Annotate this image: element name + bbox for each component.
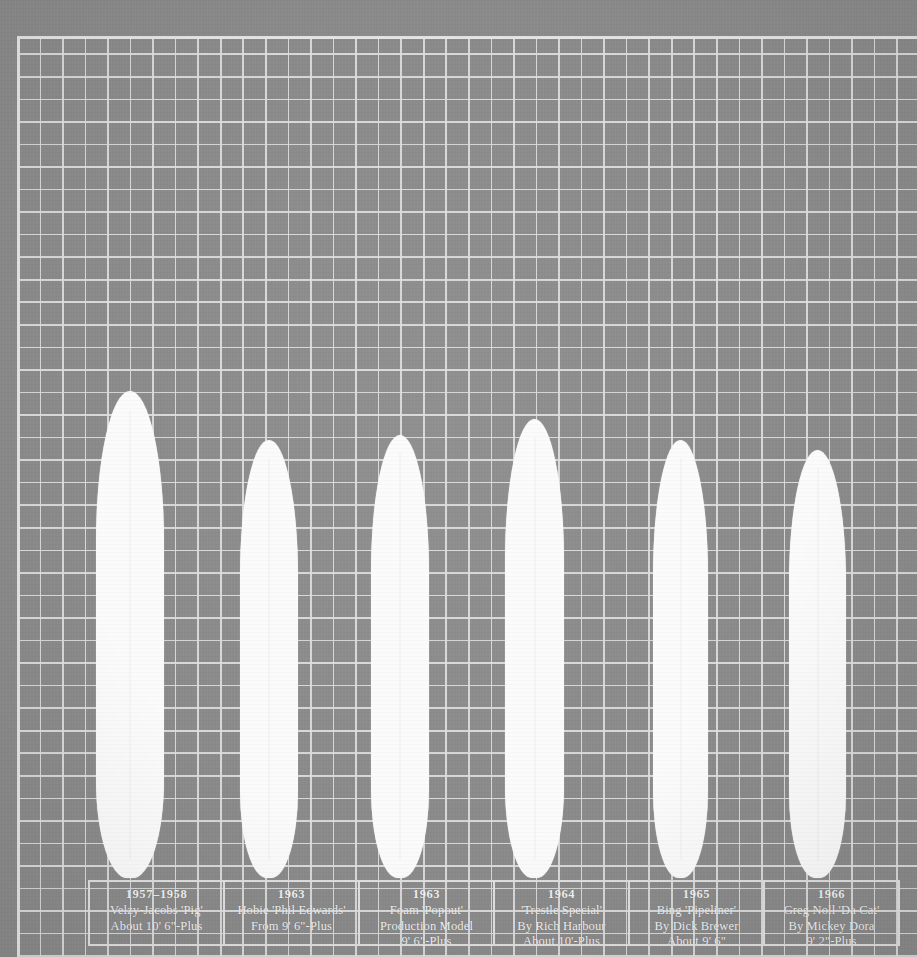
caption-line-2: Greg Noll 'Da Cat'	[784, 903, 880, 918]
surfboard-silhouette-6	[789, 450, 846, 878]
caption-line-2: Foam 'Popout'	[390, 903, 463, 918]
surfboard-silhouette-4	[505, 419, 564, 878]
caption-panel: 1957–1958Velzy-Jacobs 'Pig'About 10' 6"-…	[88, 880, 900, 946]
caption-line-2: Bing 'Pipeliner'	[657, 903, 736, 918]
caption-year: 1965	[683, 887, 710, 902]
caption-line-3: About 10' 6"-Plus	[111, 919, 203, 934]
caption-year: 1964	[548, 887, 575, 902]
surfboard-silhouette-1	[96, 391, 164, 878]
caption-line-2: Velzy-Jacobs 'Pig'	[110, 903, 203, 918]
surfboard-silhouette-2	[240, 440, 298, 878]
surfboard-chart-page: 1957–1958Velzy-Jacobs 'Pig'About 10' 6"-…	[0, 0, 917, 957]
caption-cell-6: 1966Greg Noll 'Da Cat'By Mickey Dora9' 2…	[763, 882, 898, 944]
caption-line-4: About 9' 6"	[667, 934, 726, 949]
caption-cell-2: 1963Hobie 'Phil Edwards'From 9' 6"-Plus	[223, 882, 358, 944]
surfboard-silhouette-3	[371, 435, 429, 878]
caption-cell-3: 1963Foam 'Popout'Production Model9' 6"-P…	[358, 882, 493, 944]
caption-line-4: About 10'-Plus	[523, 934, 600, 949]
caption-line-3: By Dick Brewer	[654, 919, 738, 934]
caption-line-4: 9' 2"-Plus	[806, 934, 856, 949]
caption-line-4: 9' 6"-Plus	[401, 934, 451, 949]
surfboard-silhouette-group	[0, 0, 917, 957]
caption-year: 1966	[818, 887, 845, 902]
caption-year: 1963	[413, 887, 440, 902]
caption-year: 1963	[278, 887, 305, 902]
caption-line-3: By Rich Harbour	[517, 919, 605, 934]
caption-line-2: Hobie 'Phil Edwards'	[237, 903, 345, 918]
caption-cell-4: 1964'Trestle Special'By Rich HarbourAbou…	[493, 882, 628, 944]
caption-line-3: Production Model	[380, 919, 473, 934]
caption-year: 1957–1958	[126, 887, 188, 902]
caption-line-3: From 9' 6"-Plus	[251, 919, 332, 934]
caption-cell-1: 1957–1958Velzy-Jacobs 'Pig'About 10' 6"-…	[90, 882, 223, 944]
caption-line-2: 'Trestle Special'	[521, 903, 602, 918]
caption-cell-5: 1965Bing 'Pipeliner'By Dick BrewerAbout …	[628, 882, 763, 944]
caption-line-3: By Mickey Dora	[788, 919, 874, 934]
surfboard-silhouette-5	[653, 440, 708, 878]
